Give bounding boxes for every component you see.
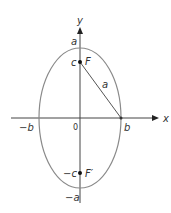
bottom-vertex-label: −a [65, 192, 80, 203]
x-axis [11, 115, 159, 121]
left-vertex-label: −b [19, 122, 34, 133]
vertex-b-point [120, 117, 123, 120]
focus-top-coord-label: c [71, 57, 77, 68]
y-axis-label: y [76, 15, 84, 26]
focus-top-point [78, 60, 82, 64]
ellipse-diagram: y x a −a b −b 0 c F −c F′ a [0, 0, 171, 213]
origin-label: 0 [73, 123, 78, 132]
top-vertex-label: a [71, 36, 77, 47]
y-axis [77, 27, 83, 203]
right-vertex-label: b [124, 122, 130, 133]
focus-to-vertex-segment [80, 62, 121, 118]
focus-bottom-point [78, 171, 82, 175]
segment-label: a [102, 79, 108, 90]
focus-top-label: F [85, 56, 91, 67]
y-arrow-icon [77, 27, 83, 34]
focus-bottom-label: F′ [85, 168, 94, 179]
focus-bottom-coord-label: −c [63, 168, 77, 179]
x-arrow-icon [152, 115, 159, 121]
x-axis-label: x [162, 113, 169, 124]
